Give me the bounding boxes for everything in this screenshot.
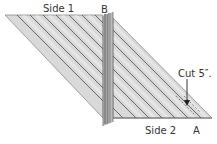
quilt-diagram: Side 1 B Cut 5″. Side 2 A [0,0,217,144]
side2-label: Side 2 [145,125,176,136]
point-a-label: A [193,125,200,136]
point-b-label: B [101,4,108,15]
side1-label: Side 1 [43,3,74,14]
seam-strip [103,12,113,126]
cut-label: Cut 5″. [178,68,212,79]
